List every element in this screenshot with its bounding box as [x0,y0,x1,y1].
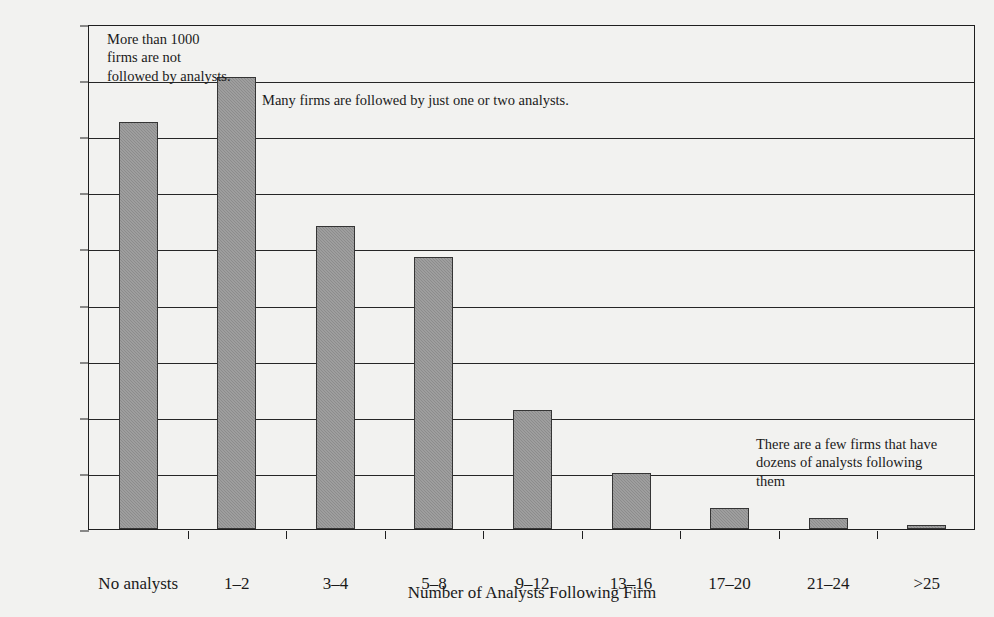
x-axis-tick [877,531,878,539]
x-axis-tick [286,531,287,539]
bar [316,226,355,529]
y-axis-tick [80,474,89,475]
chart-annotation: There are a few firms that have dozens o… [756,435,971,490]
x-axis-tick-label: No analysts [98,574,178,594]
y-axis-tick [80,362,89,363]
x-axis-tick [680,531,681,539]
y-axis-tick [80,418,89,419]
bar [414,257,453,529]
x-axis-tick [188,531,189,539]
x-axis-tick [385,531,386,539]
bar [809,518,848,529]
bar [513,410,552,529]
x-axis-tick-label: 17–20 [708,574,751,594]
x-axis-tick-label: 1–2 [224,574,250,594]
x-axis-tick [483,531,484,539]
bar [119,122,158,529]
x-axis-tick-label: >25 [913,574,940,594]
y-axis-tick [80,26,89,27]
y-axis-tick [80,138,89,139]
y-axis-tick [80,250,89,251]
bar [217,77,256,529]
bar-chart-figure: 020040060080010001200140016001800No anal… [0,0,994,617]
x-axis-title: Number of Analysts Following Firm [408,583,656,603]
y-axis-tick [80,531,89,532]
chart-annotation: More than 1000 firms are not followed by… [107,30,307,85]
y-axis-tick [80,82,89,83]
x-axis-tick-label: 21–24 [807,574,850,594]
y-axis-tick [80,306,89,307]
x-axis-tick [779,531,780,539]
bar [710,508,749,529]
y-axis-tick [80,194,89,195]
bar [612,473,651,529]
bar [907,525,946,529]
x-axis-tick-label: 3–4 [323,574,349,594]
x-axis-tick [582,531,583,539]
chart-annotation: Many firms are followed by just one or t… [262,91,702,109]
